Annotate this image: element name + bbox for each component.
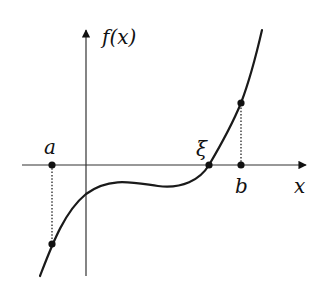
x-axis-label: x bbox=[294, 174, 305, 198]
point-a-axis bbox=[48, 161, 55, 168]
point-xi bbox=[205, 161, 212, 168]
label-a: a bbox=[44, 135, 56, 159]
ivt-diagram: f(x) x a ξ b bbox=[0, 0, 332, 290]
point-fb bbox=[237, 99, 244, 106]
y-axis-label: f(x) bbox=[100, 25, 136, 49]
point-b-axis bbox=[237, 161, 244, 168]
function-curve bbox=[40, 30, 262, 276]
label-xi: ξ bbox=[196, 137, 208, 161]
point-fa bbox=[48, 240, 55, 247]
label-b: b bbox=[235, 174, 248, 198]
